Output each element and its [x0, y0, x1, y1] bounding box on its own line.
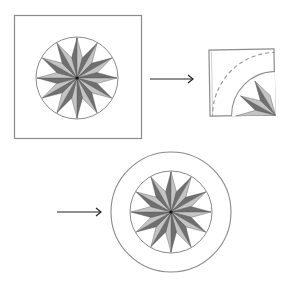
arrow-right-icon [57, 208, 101, 216]
step-2-folded-quarter [209, 48, 289, 180]
quilt-diagram [0, 0, 289, 283]
star-center-dot [169, 210, 172, 213]
star-medallion [36, 37, 118, 119]
arrow-right-icon [150, 75, 193, 83]
step-3-framed-medallion [111, 152, 231, 272]
step-1-square-block [15, 16, 142, 139]
star-center-dot [75, 76, 78, 79]
